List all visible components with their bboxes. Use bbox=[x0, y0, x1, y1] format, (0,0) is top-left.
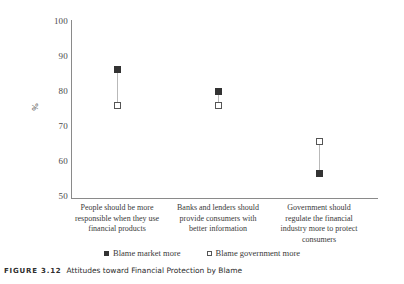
category-3-line-3: industry more to protect bbox=[265, 224, 373, 235]
figure-container: % 100 90 80 70 60 50 People should bbox=[0, 0, 404, 284]
chart-legend: Blame market more Blame government more bbox=[0, 248, 404, 258]
connector-line bbox=[319, 141, 320, 173]
x-category-label-2: Banks and lenders should provide consume… bbox=[163, 203, 273, 235]
chart-plot-area: % 100 90 80 70 60 50 People should bbox=[0, 0, 404, 250]
figure-caption: FIGURE 3.12Attitudes toward Financial Pr… bbox=[4, 266, 242, 275]
y-tick-50: 50 bbox=[42, 192, 68, 201]
legend-item-blame-market-more[interactable]: Blame market more bbox=[104, 248, 181, 258]
x-category-label-1: People should be more responsible when t… bbox=[61, 203, 173, 235]
open-square-icon bbox=[207, 251, 212, 256]
x-axis-line bbox=[71, 198, 378, 199]
connector-line bbox=[117, 70, 118, 106]
category-2-line-2: provide consumers with bbox=[163, 214, 273, 225]
y-axis-line bbox=[71, 20, 72, 199]
legend-item-blame-government-more[interactable]: Blame government more bbox=[207, 248, 301, 258]
category-1-line-3: financial products bbox=[61, 224, 173, 235]
y-tick-90: 90 bbox=[42, 52, 68, 61]
figure-caption-text: Attitudes toward Financial Protection by… bbox=[67, 266, 243, 275]
category-3-line-1: Government should bbox=[265, 203, 373, 214]
category-2-line-3: better information bbox=[163, 224, 273, 235]
filled-square-icon bbox=[104, 251, 109, 256]
marker-blame-government-more[interactable] bbox=[316, 138, 323, 145]
marker-blame-market-more[interactable] bbox=[316, 170, 323, 177]
y-tick-80: 80 bbox=[42, 87, 68, 96]
marker-blame-market-more[interactable] bbox=[114, 66, 121, 73]
legend-label-2: Blame government more bbox=[216, 248, 301, 258]
category-3-line-4: consumers bbox=[265, 235, 373, 246]
y-tick-100: 100 bbox=[42, 17, 68, 26]
x-category-label-3: Government should regulate the financial… bbox=[265, 203, 373, 245]
legend-label-1: Blame market more bbox=[113, 248, 181, 258]
figure-number: FIGURE 3.12 bbox=[4, 267, 62, 275]
category-3-line-2: regulate the financial bbox=[265, 214, 373, 225]
marker-blame-government-more[interactable] bbox=[114, 102, 121, 109]
y-tick-70: 70 bbox=[42, 122, 68, 131]
category-1-line-2: responsible when they use bbox=[61, 214, 173, 225]
marker-blame-market-more[interactable] bbox=[215, 88, 222, 95]
marker-blame-government-more[interactable] bbox=[215, 102, 222, 109]
category-1-line-1: People should be more bbox=[61, 203, 173, 214]
category-2-line-1: Banks and lenders should bbox=[163, 203, 273, 214]
y-tick-60: 60 bbox=[42, 157, 68, 166]
